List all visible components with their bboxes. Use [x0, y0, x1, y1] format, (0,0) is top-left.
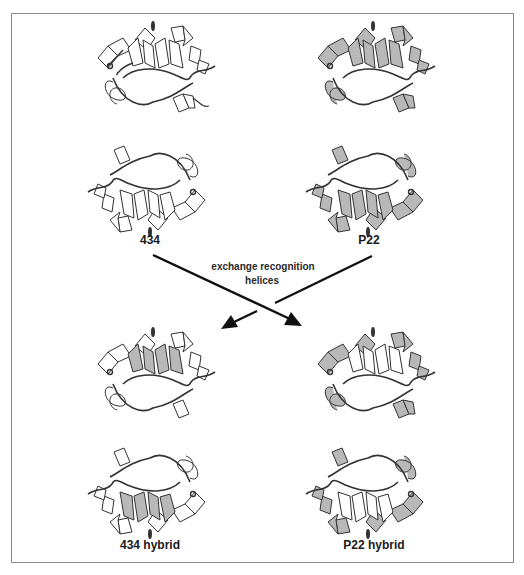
arrow-caption-line2: helices [245, 274, 279, 288]
protein-helix-exchange-figure: 434 P22 434 hybrid P22 hybrid exchange r… [0, 0, 524, 575]
label-434: 434 [140, 233, 160, 247]
protein-434-hybrid-upper [98, 327, 215, 418]
protein-434-hybrid-lower [88, 448, 205, 539]
label-P22: P22 [358, 233, 379, 247]
protein-P22-hybrid-upper [318, 327, 435, 418]
protein-P22-upper [318, 21, 435, 112]
label-434-hybrid: 434 hybrid [120, 538, 180, 552]
protein-P22-lower [306, 146, 423, 237]
protein-P22-hybrid-lower [306, 448, 423, 539]
protein-434-upper [98, 21, 215, 112]
label-P22-hybrid: P22 hybrid [343, 538, 404, 552]
arrow-caption-line1: exchange recognition [211, 260, 314, 274]
arrowhead-right-icon [284, 312, 302, 326]
protein-434-lower [88, 146, 205, 237]
